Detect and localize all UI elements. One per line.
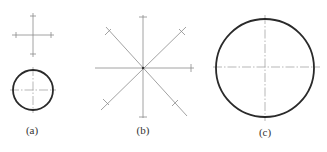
panel-b-radial-lines	[95, 15, 194, 118]
panel-a-circle	[10, 67, 56, 113]
panel-a-label: (a)	[26, 124, 38, 136]
drawing-steps-figure	[0, 0, 327, 152]
panel-b-label: (b)	[137, 124, 150, 136]
panel-c-circle	[213, 15, 320, 121]
panel-a-cross	[12, 13, 54, 57]
panel-c-label: (c)	[259, 126, 271, 138]
